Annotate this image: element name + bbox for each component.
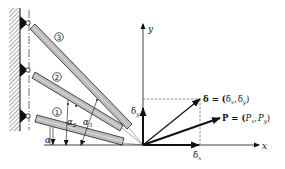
bar-label-1: 1 bbox=[53, 108, 62, 117]
alpha-2-label: α2 bbox=[67, 117, 77, 128]
pin-icon bbox=[26, 68, 30, 72]
delta-y-label: δy bbox=[131, 106, 140, 118]
bar-3 bbox=[30, 24, 132, 129]
alpha-3-label: α3 bbox=[83, 117, 93, 128]
bars bbox=[30, 24, 132, 145]
delta-vector bbox=[143, 99, 200, 145]
pin-icon bbox=[26, 21, 30, 25]
svg-text:1: 1 bbox=[55, 109, 59, 117]
x-axis-label: x bbox=[262, 141, 267, 151]
load-equation: P = (Px,Py) bbox=[222, 113, 270, 125]
bar-label-3: 3 bbox=[55, 33, 64, 42]
y-axis-label: y bbox=[147, 24, 154, 34]
bar-extension-lines bbox=[121, 127, 143, 145]
bar-label-2: 2 bbox=[53, 73, 62, 82]
truss-diagram: 3 2 1 α1 α2 α3 y x bbox=[0, 0, 285, 169]
diagram-canvas: 3 2 1 α1 α2 α3 y x bbox=[0, 0, 285, 169]
axes: y x bbox=[143, 24, 267, 151]
svg-text:2: 2 bbox=[55, 74, 59, 82]
load-vector bbox=[143, 118, 220, 145]
delta-x-label: δx bbox=[193, 150, 202, 161]
pin-icon bbox=[26, 114, 30, 118]
wall bbox=[9, 8, 20, 131]
svg-text:3: 3 bbox=[57, 34, 61, 42]
wall-hatching bbox=[9, 8, 20, 131]
delta-equation: δ = (δx,δy) bbox=[203, 94, 249, 106]
